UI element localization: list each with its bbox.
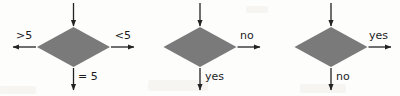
flowchart-diagram: >5 <5 = 5 no yes yes no <box>0 0 400 96</box>
edge-label-equals-5: = 5 <box>78 70 98 83</box>
diamond-shape <box>37 27 110 67</box>
edge-label-less-than-5: <5 <box>115 29 131 42</box>
decision-node-3: yes no <box>295 3 392 90</box>
diamond-shape <box>164 27 237 67</box>
edge-label-yes: yes <box>369 29 388 42</box>
edge-label-no: no <box>240 29 254 42</box>
decision-node-1: >5 <5 = 5 <box>13 3 134 90</box>
edge-label-no: no <box>336 70 350 83</box>
edge-label-greater-than-5: >5 <box>16 29 32 42</box>
diamond-shape <box>295 27 368 67</box>
decision-node-2: no yes <box>164 3 261 90</box>
edge-label-yes: yes <box>205 70 224 83</box>
